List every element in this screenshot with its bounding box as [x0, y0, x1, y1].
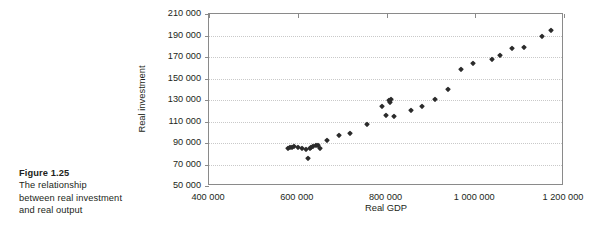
data-point [419, 104, 424, 109]
data-point [510, 46, 515, 51]
x-axis-tick-labels: 400 000600 000800 0001 000 0001 200 000 [0, 186, 609, 206]
x-tick-label: 1 000 000 [454, 192, 495, 202]
figure-container: Figure 1.25 The relationship between rea… [0, 0, 609, 239]
x-tick-label: 400 000 [191, 192, 224, 202]
scatter-chart: 50 00070 00090 000110 000130 000150 0001… [0, 0, 609, 239]
data-point [522, 45, 527, 50]
data-point [445, 87, 450, 92]
data-point [318, 146, 323, 151]
data-point [305, 156, 310, 161]
y-tick-mark [205, 122, 209, 123]
data-point [459, 66, 464, 71]
y-tick-mark [205, 79, 209, 80]
y-tick-mark [205, 143, 209, 144]
x-tick-label: 600 000 [280, 192, 313, 202]
data-point [384, 113, 389, 118]
gridline-y [209, 79, 562, 80]
y-tick-label: 70 000 [173, 159, 201, 169]
data-point [336, 133, 341, 138]
y-tick-mark [205, 165, 209, 166]
data-point [539, 33, 544, 38]
data-point [348, 131, 353, 136]
gridline-y [209, 143, 562, 144]
x-tick-mark [475, 14, 476, 18]
data-point [548, 28, 553, 33]
data-point [490, 57, 495, 62]
y-tick-label: 170 000 [168, 51, 201, 61]
y-tick-mark [205, 100, 209, 101]
x-tick-mark [564, 14, 565, 18]
gridline-y [209, 100, 562, 101]
data-point [379, 104, 384, 109]
x-axis-title: Real GDP [365, 202, 407, 213]
y-tick-label: 90 000 [173, 137, 201, 147]
y-tick-label: 110 000 [168, 116, 201, 126]
y-tick-label: 210 000 [168, 8, 201, 18]
gridline-y [209, 165, 562, 166]
y-tick-mark [205, 57, 209, 58]
plot-area [208, 13, 563, 185]
x-tick-mark [298, 14, 299, 18]
x-tick-mark [387, 14, 388, 18]
data-point [392, 114, 397, 119]
data-point [471, 61, 476, 66]
y-tick-label: 150 000 [168, 73, 201, 83]
gridline-y [209, 57, 562, 58]
x-tick-label: 800 000 [369, 192, 402, 202]
x-tick-label: 1 200 000 [543, 192, 584, 202]
x-tick-mark [209, 14, 210, 18]
y-tick-mark [205, 36, 209, 37]
y-tick-label: 130 000 [168, 94, 201, 104]
y-axis-title: Real investment [136, 65, 147, 132]
data-point [324, 137, 329, 142]
data-point [408, 107, 413, 112]
gridline-y [209, 36, 562, 37]
gridline-y [209, 122, 562, 123]
y-tick-label: 190 000 [168, 30, 201, 40]
data-point [364, 121, 369, 126]
